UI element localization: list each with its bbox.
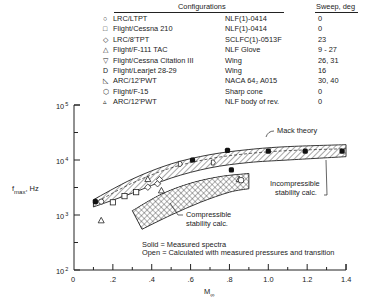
x-tick-label: 1.4	[341, 276, 351, 284]
incompressible-band	[93, 145, 346, 207]
annotation-incompressible-line1: Incompressible	[270, 180, 320, 188]
y-tick-label: 105	[56, 100, 68, 111]
chart-plot	[0, 0, 376, 306]
data-point	[98, 217, 104, 223]
y-tick-label: 103	[56, 210, 68, 221]
data-point	[225, 148, 230, 153]
x-tick-label: .2	[110, 276, 116, 284]
data-point	[238, 178, 243, 183]
x-tick-label: .6	[188, 276, 194, 284]
annotation-compressible-line2: stability calc.	[186, 220, 228, 228]
y-tick-label: 102	[56, 265, 68, 276]
data-point	[340, 149, 345, 154]
y-axis-label: fmax, Hz	[12, 185, 39, 196]
data-point	[229, 167, 234, 172]
data-point	[99, 199, 104, 204]
annotation-incompressible-line2: stability calc.	[275, 189, 317, 197]
data-point	[266, 149, 271, 154]
data-point	[110, 200, 115, 205]
data-point	[303, 149, 308, 154]
x-tick-label: .4	[149, 276, 155, 284]
x-tick-label: .8	[226, 276, 232, 284]
data-point	[211, 160, 215, 165]
x-tick-label: 1.2	[302, 276, 312, 284]
note-open: Open = Calculated with measured pressure…	[142, 249, 334, 257]
data-point	[178, 161, 182, 166]
x-axis-label: M∞	[204, 288, 215, 299]
x-tick-label: 1.0	[263, 276, 273, 284]
y-tick-label: 104	[56, 155, 68, 166]
data-point	[190, 157, 195, 162]
data-point	[93, 199, 98, 204]
annotation-mack-theory: Mack theory	[277, 127, 317, 135]
data-point	[134, 190, 139, 195]
x-tick-label: 0	[71, 276, 75, 284]
data-point	[122, 194, 127, 199]
annotation-compressible-line1: Compressible	[186, 211, 231, 219]
